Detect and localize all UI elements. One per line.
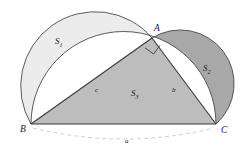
lunes-of-hippocrates-diagram: A B C S1 S2 S3 c b a [0,0,249,153]
dashed-measure-arc-a [33,128,214,139]
vertex-label-b: B [20,124,26,134]
side-label-b: b [172,86,176,94]
geometry-figure: A B C S1 S2 S3 c b a [0,0,249,153]
vertex-label-c: C [221,125,228,135]
side-label-a: a [125,137,129,145]
vertex-label-a: A [153,23,160,33]
